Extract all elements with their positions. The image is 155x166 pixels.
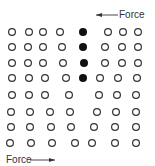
atom-open: [40, 60, 47, 67]
atom-open: [42, 92, 49, 99]
atom-open: [105, 29, 112, 36]
atom-extra-half-plane: [79, 28, 87, 36]
atom-open: [8, 124, 15, 131]
atom-open: [28, 140, 35, 147]
atom-open: [113, 109, 120, 116]
atom-open: [25, 60, 32, 67]
atom-open: [119, 44, 126, 51]
atom-open: [8, 109, 15, 116]
atom-lattice: [7, 28, 142, 146]
atom-open: [42, 75, 49, 82]
atom-open: [25, 44, 32, 51]
atom-extra-half-plane: [79, 43, 87, 51]
atom-open: [26, 92, 33, 99]
atom-open: [91, 124, 98, 131]
atom-open: [102, 44, 109, 51]
atom-open: [133, 92, 140, 99]
atom-open: [96, 92, 103, 99]
atom-open: [9, 44, 16, 51]
atom-open: [26, 75, 33, 82]
atom-open: [7, 140, 14, 147]
atom-open: [119, 60, 126, 67]
atom-open: [9, 60, 16, 67]
atom-open: [94, 109, 101, 116]
force-label-top: Force: [119, 10, 145, 20]
atom-open: [48, 124, 55, 131]
atom-open: [27, 109, 34, 116]
atom-open: [26, 29, 33, 36]
atom-open: [89, 140, 96, 147]
atom-open: [115, 75, 122, 82]
atom-open: [66, 92, 73, 99]
atom-open: [60, 60, 67, 67]
atom-open: [49, 140, 56, 147]
atom-open: [133, 109, 140, 116]
atom-extra-half-plane: [79, 74, 87, 82]
atom-open: [72, 140, 79, 147]
atom-open: [9, 29, 16, 36]
atom-open: [9, 92, 16, 99]
atom-open: [63, 75, 70, 82]
atom-open: [40, 29, 47, 36]
atom-open: [47, 109, 54, 116]
atom-open: [59, 44, 66, 51]
atom-open: [135, 29, 142, 36]
atom-open: [133, 124, 140, 131]
atom-open: [135, 44, 142, 51]
atom-open: [114, 92, 121, 99]
atom-open: [102, 60, 109, 67]
atom-open: [9, 75, 16, 82]
atom-extra-half-plane: [80, 59, 88, 67]
atom-open: [97, 75, 104, 82]
atom-open: [68, 124, 75, 131]
atom-open: [112, 124, 119, 131]
atom-open: [57, 29, 64, 36]
dislocation-diagram: [0, 0, 155, 166]
force-label-bottom: Force: [6, 155, 32, 165]
atom-open: [67, 109, 74, 116]
force-arrow-right-icon: [30, 158, 55, 162]
atom-open: [112, 140, 119, 147]
atom-open: [40, 44, 47, 51]
atom-open: [120, 29, 127, 36]
atom-open: [134, 75, 141, 82]
force-arrow-left-icon: [96, 13, 118, 17]
atom-open: [27, 124, 34, 131]
atom-open: [135, 60, 142, 67]
atom-open: [133, 140, 140, 147]
